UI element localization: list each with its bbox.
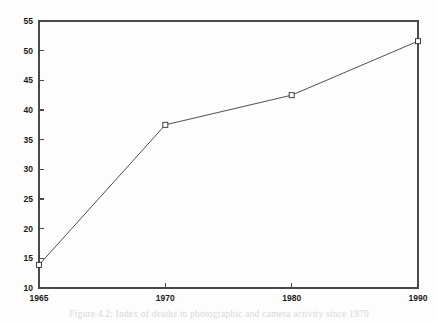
data-series-line — [39, 41, 418, 265]
y-tick-label: 30 — [24, 164, 34, 174]
figure-container: 10 15 20 25 30 35 40 45 50 55 1965 1970 … — [0, 0, 438, 322]
x-tick-label: 1990 — [409, 293, 428, 303]
data-point-marker — [289, 93, 294, 98]
data-point-marker — [163, 122, 168, 127]
y-tick-label: 50 — [24, 46, 34, 56]
x-tick-label: 1965 — [30, 293, 49, 303]
y-tick-label: 10 — [24, 283, 34, 293]
y-tick-label: 45 — [24, 75, 34, 85]
y-axis-ticks — [39, 21, 44, 288]
y-tick-label: 20 — [24, 224, 34, 234]
plot-frame — [39, 21, 418, 288]
x-tick-label: 1970 — [156, 293, 175, 303]
x-tick-label: 1980 — [282, 293, 301, 303]
y-tick-label: 55 — [24, 16, 34, 26]
y-tick-label: 35 — [24, 135, 34, 145]
data-point-marker — [37, 262, 42, 267]
data-point-marker — [416, 39, 421, 44]
y-tick-label: 25 — [24, 194, 34, 204]
y-axis-labels: 10 15 20 25 30 35 40 45 50 55 — [24, 16, 34, 293]
figure-caption: Figure 4.2: Index of deaths in photograp… — [0, 309, 438, 319]
data-point-markers — [37, 39, 421, 268]
y-tick-label: 40 — [24, 105, 34, 115]
x-axis-labels: 1965 1970 1980 1990 — [30, 293, 428, 303]
line-chart: 10 15 20 25 30 35 40 45 50 55 1965 1970 … — [0, 0, 438, 322]
y-tick-label: 15 — [24, 253, 34, 263]
x-axis-ticks — [39, 283, 418, 288]
